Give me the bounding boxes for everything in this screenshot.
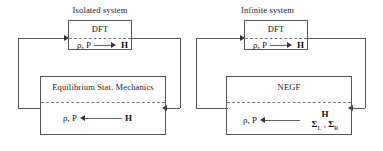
right-arrow-icon xyxy=(270,41,294,49)
equation-isolated-equilibrium: ρ, P H xyxy=(63,113,132,123)
right-arrow-icon xyxy=(94,41,118,49)
box-infinite-negf: NEGF ρ, P H ΣL , ΣR xyxy=(226,76,352,135)
equation-infinite-dft: ρ, P H xyxy=(253,40,304,50)
divider-infinite-negf xyxy=(227,102,351,103)
equation-infinite-negf-left: ρ, P xyxy=(243,115,257,125)
equation-infinite-negf: ρ, P xyxy=(243,115,303,125)
wire-infinite-top-right-horizontal xyxy=(308,38,365,39)
figure-canvas: Isolated system DFT ρ, P H Equilibrium S… xyxy=(0,0,383,151)
wire-isolated-bottom-left-horizontal xyxy=(18,108,40,109)
left-arrow-icon xyxy=(80,114,122,122)
wire-infinite-left-vertical xyxy=(196,38,197,108)
box-infinite-dft: DFT ρ, P H xyxy=(244,20,308,50)
box-title-isolated-equilibrium: Equilibrium Stat. Mechanics xyxy=(41,82,165,92)
equation-isolated-equilibrium-left: ρ, P xyxy=(63,113,77,123)
divider-isolated-equilibrium xyxy=(41,102,165,103)
equation-infinite-dft-left: ρ, P xyxy=(253,40,267,50)
divider-isolated-dft xyxy=(69,38,131,39)
box-title-infinite-negf: NEGF xyxy=(227,82,351,92)
negf-hamiltonian-label: H xyxy=(303,109,347,119)
wire-infinite-top-left-horizontal xyxy=(196,38,241,39)
equation-isolated-equilibrium-right: H xyxy=(125,113,132,123)
equation-infinite-dft-right: H xyxy=(297,40,304,50)
wire-isolated-right-vertical xyxy=(180,38,181,108)
box-title-infinite-dft: DFT xyxy=(245,24,307,34)
box-isolated-equilibrium: Equilibrium Stat. Mechanics ρ, P H xyxy=(40,76,166,135)
wire-isolated-top-right-horizontal xyxy=(132,38,180,39)
box-title-isolated-dft: DFT xyxy=(69,24,131,34)
equation-infinite-negf-right: H ΣL , ΣR xyxy=(303,109,347,132)
wire-isolated-left-vertical xyxy=(18,38,19,108)
wire-infinite-right-vertical xyxy=(365,38,366,108)
box-isolated-dft: DFT ρ, P H xyxy=(68,20,132,50)
group-title-isolated: Isolated system xyxy=(60,5,140,15)
equation-isolated-dft: ρ, P H xyxy=(77,40,128,50)
equation-isolated-dft-left: ρ, P xyxy=(77,40,91,50)
wire-infinite-bottom-right-horizontal xyxy=(352,108,365,109)
wire-infinite-bottom-left-horizontal xyxy=(196,108,228,109)
equation-isolated-dft-right: H xyxy=(121,40,128,50)
wire-isolated-bottom-right-horizontal xyxy=(166,108,180,109)
group-title-infinite: Infinite system xyxy=(225,5,310,15)
left-arrow-icon xyxy=(260,116,300,124)
divider-infinite-dft xyxy=(245,38,307,39)
wire-isolated-top-left-horizontal xyxy=(18,38,65,39)
negf-selfenergy-labels: ΣL , ΣR xyxy=(303,119,347,131)
